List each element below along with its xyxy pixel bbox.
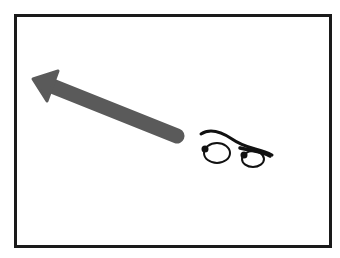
illustration: [0, 0, 340, 258]
right-pupil: [241, 152, 248, 159]
left-pupil: [202, 146, 209, 153]
arrow-up-left-icon: [33, 71, 177, 136]
left-eye: [204, 143, 230, 163]
eyes-icon: [201, 131, 272, 167]
